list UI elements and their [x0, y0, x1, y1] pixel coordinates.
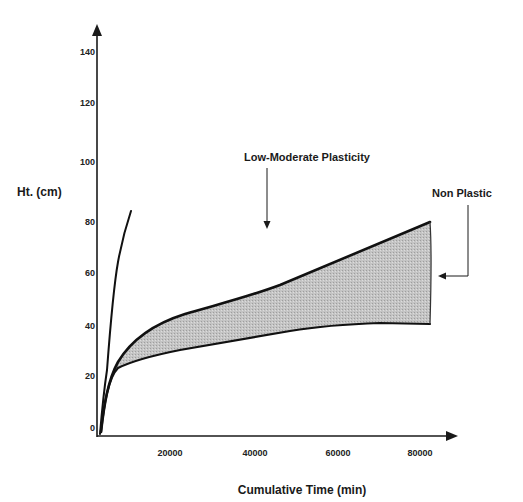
x-tick-80000: 80000 — [407, 448, 432, 458]
arrow-left-icon — [438, 273, 446, 280]
y-axis-title: Ht. (cm) — [17, 185, 62, 199]
x-tick-40000: 40000 — [242, 448, 267, 458]
x-tick-20000: 20000 — [157, 448, 182, 458]
plasticity-band-area — [103, 222, 431, 420]
annotation-non-plastic-arrow-line — [446, 205, 468, 276]
y-tick-100: 100 — [80, 157, 95, 167]
x-tick-60000: 60000 — [325, 448, 350, 458]
y-tick-0: 0 — [90, 423, 95, 433]
chart-canvas: 0 20 40 60 80 100 120 140 20000 40000 60… — [0, 0, 523, 502]
arrow-down-icon — [264, 221, 271, 229]
y-tick-80: 80 — [85, 217, 95, 227]
y-tick-120: 120 — [80, 98, 95, 108]
y-tick-20: 20 — [85, 371, 95, 381]
y-tick-140: 140 — [80, 47, 95, 57]
y-tick-60: 60 — [85, 268, 95, 278]
x-axis-title: Cumulative Time (min) — [238, 483, 366, 497]
x-axis-arrow-icon — [446, 431, 458, 441]
y-axis-arrow-icon — [92, 24, 102, 36]
y-tick-40: 40 — [85, 321, 95, 331]
annotation-low-moderate-plasticity: Low-Moderate Plasticity — [244, 151, 371, 163]
annotation-non-plastic: Non Plastic — [432, 187, 492, 199]
